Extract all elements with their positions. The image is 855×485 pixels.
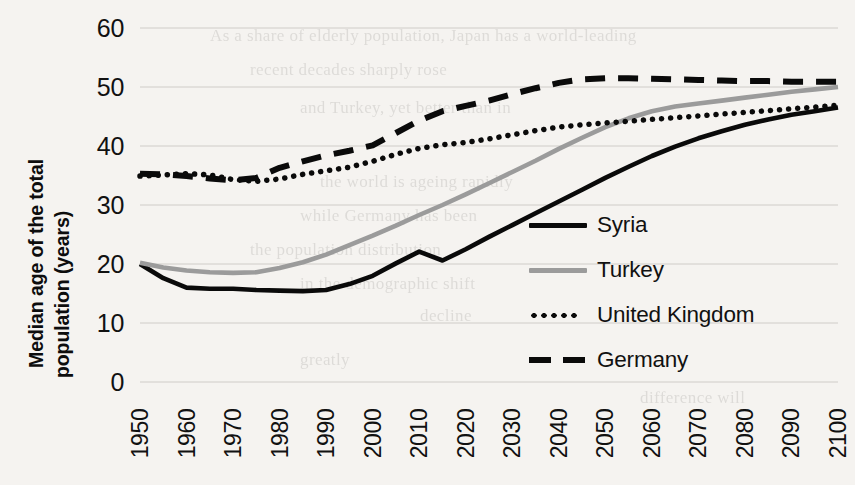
x-axis-tick-label: 2020 [452,409,479,459]
series-line-united-kingdom [140,105,838,181]
x-axis-tick-label: 2080 [731,409,758,459]
x-axis-tick-label: 2010 [406,409,433,459]
legend-swatch-line [529,313,579,318]
legend-label: Germany [597,347,688,373]
legend-label: Turkey [597,257,664,283]
legend-item-syria: Syria [527,212,647,238]
legend-swatch-icon [527,350,589,370]
legend-label: United Kingdom [597,302,754,328]
x-axis-tick-label: 1990 [313,409,340,459]
x-axis-tick-label: 1970 [220,409,247,459]
legend-swatch-icon [527,260,589,280]
x-axis-tick-label: 2090 [778,409,805,459]
legend-swatch-icon [527,215,589,235]
x-axis-tick-label: 2000 [359,409,386,459]
legend-swatch-icon [527,305,589,325]
legend-swatch-line [529,223,587,228]
x-axis-tick-label: 1950 [127,409,154,459]
x-axis-tick-label: 2040 [545,409,572,459]
x-axis-tick-label: 2100 [825,409,852,459]
legend-label: Syria [597,212,647,238]
legend-item-united-kingdom: United Kingdom [527,302,754,328]
x-axis-tick-label: 2070 [685,409,712,459]
x-axis-tick-label: 1980 [266,409,293,459]
legend-swatch-line [529,268,587,273]
x-axis-tick-label: 2030 [499,409,526,459]
x-axis-tick-label: 2060 [638,409,665,459]
legend-item-turkey: Turkey [527,257,664,283]
legend-swatch-line [529,357,587,363]
x-axis-tick-label: 2050 [592,409,619,459]
legend-item-germany: Germany [527,347,688,373]
x-axis-tick-label: 1960 [173,409,200,459]
median-age-line-chart: Median age of the total population (year… [0,0,855,485]
